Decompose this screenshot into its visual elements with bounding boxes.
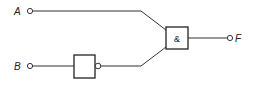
input-a-label: A — [13, 6, 21, 17]
wire-not-to-and — [101, 47, 166, 66]
input-a-terminal — [27, 8, 32, 13]
and-gate-label: & — [174, 34, 180, 44]
output-f-terminal — [227, 35, 232, 40]
input-b-terminal — [27, 63, 32, 68]
not-gate — [74, 55, 95, 78]
output-f-label: F — [235, 33, 242, 44]
not-gate-inversion-bubble — [95, 63, 101, 69]
input-b-label: B — [14, 61, 21, 72]
wire-a-to-and — [33, 11, 166, 30]
logic-diagram: A B & F — [0, 0, 255, 87]
